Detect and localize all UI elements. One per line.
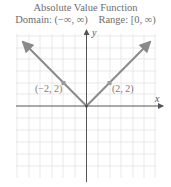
x-axis-label: x (154, 93, 160, 104)
coordinate-plane: x y (−2, 2) (2, 2) (0, 0, 171, 187)
vertex-point (85, 104, 88, 107)
point-label-2-2: (2, 2) (112, 83, 134, 95)
right-branch (87, 42, 151, 106)
point-label-neg2-2: (−2, 2) (35, 83, 62, 95)
left-branch (23, 42, 87, 106)
point-2-2 (108, 81, 112, 85)
y-axis-label: y (91, 27, 97, 38)
